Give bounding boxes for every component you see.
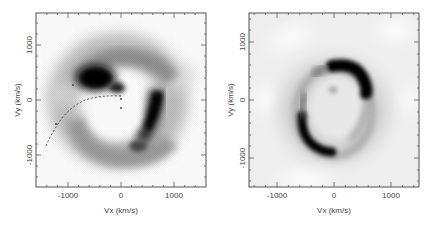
- right-ytick-label: -1000: [238, 147, 247, 168]
- right-y-axis-label: Vy (km/s): [226, 83, 235, 117]
- left-intensity-map: [36, 13, 206, 187]
- left-x-axis-label: Vx (km/s): [104, 206, 138, 215]
- tomogram-panel-observed: -1000 0 1000 1000 0 -1000 Vx (km/s) Vy (…: [0, 0, 215, 228]
- right-xtick-label: -1000: [267, 191, 288, 200]
- left-ytick-label: 0: [25, 97, 34, 102]
- tomogram-panel-model: -1000 0 1000 1000 0 -1000 Vx (km/s) Vy (…: [215, 0, 430, 228]
- left-xtick-label: 0: [119, 191, 124, 200]
- left-ytick-label: 1000: [25, 36, 34, 54]
- right-x-axis-label: Vx (km/s): [317, 206, 351, 215]
- left-xtick-label: 1000: [165, 191, 183, 200]
- left-y-axis-label: Vy (km/s): [13, 83, 22, 117]
- right-ytick-label: 1000: [238, 33, 247, 51]
- left-xtick-label: -1000: [58, 191, 79, 200]
- left-plot: -1000 0 1000 1000 0 -1000 Vx (km/s) Vy (…: [0, 0, 215, 228]
- right-ytick-label: 0: [238, 97, 247, 102]
- right-intensity-map: [249, 13, 419, 188]
- left-ytick-label: -1000: [25, 144, 34, 165]
- right-plot: -1000 0 1000 1000 0 -1000 Vx (km/s) Vy (…: [215, 0, 430, 228]
- right-xtick-label: 1000: [382, 191, 400, 200]
- right-xtick-label: 0: [332, 191, 337, 200]
